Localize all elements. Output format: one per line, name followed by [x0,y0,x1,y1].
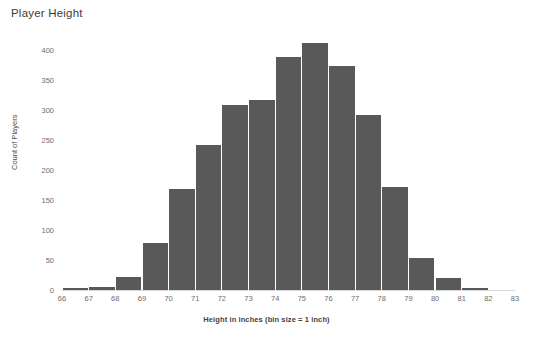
x-axis-tick-label: 77 [351,294,359,303]
y-axis-tick-label: 150 [41,196,54,205]
x-axis-tick-label: 78 [378,294,386,303]
x-axis-tick-label: 69 [138,294,146,303]
histogram-bar[interactable] [222,105,247,290]
plot-area [62,36,515,290]
x-axis-tick-label: 79 [404,294,412,303]
histogram-bar[interactable] [329,66,354,290]
histogram-bar[interactable] [356,115,381,290]
y-axis-title: Count of Players [10,115,19,170]
histogram-bar[interactable] [116,277,141,290]
x-axis-tick-label: 81 [458,294,466,303]
histogram-bar[interactable] [249,100,274,290]
y-axis-tick-label: 50 [46,256,54,265]
histogram-bar[interactable] [409,258,434,290]
y-axis-tick-label: 400 [41,46,54,55]
y-axis-tick-label: 0 [50,286,54,295]
y-axis-tick-label: 200 [41,166,54,175]
y-axis: Count of Players 05010015020025030035040… [0,0,62,337]
x-axis-tick-label: 67 [84,294,92,303]
y-axis-tick-label: 300 [41,106,54,115]
histogram-bar[interactable] [382,187,407,290]
x-axis-line [62,290,515,291]
y-axis-tick-label: 350 [41,76,54,85]
x-axis-tick-label: 82 [484,294,492,303]
x-axis-tick-label: 74 [271,294,279,303]
x-axis-tick-label: 66 [58,294,66,303]
y-axis-tick-label: 250 [41,136,54,145]
y-axis-tick-label: 100 [41,226,54,235]
histogram-bar[interactable] [436,278,461,290]
x-axis-tick-label: 73 [244,294,252,303]
x-axis-tick-label: 68 [111,294,119,303]
histogram-bar[interactable] [169,189,194,290]
histogram-bar[interactable] [302,43,327,290]
x-axis-tick-label: 83 [511,294,519,303]
histogram-bar[interactable] [196,145,221,290]
x-axis-tick-label: 80 [431,294,439,303]
x-axis-tick-label: 71 [191,294,199,303]
x-axis-tick-label: 76 [324,294,332,303]
histogram-bar[interactable] [276,57,301,290]
x-axis-tick-label: 75 [298,294,306,303]
x-axis-title: Height in inches (bin size = 1 inch) [0,315,533,324]
x-axis-tick-label: 72 [218,294,226,303]
x-axis-tick-label: 70 [164,294,172,303]
histogram-chart: Player Height Count of Players 050100150… [0,0,533,337]
histogram-bar[interactable] [143,243,168,290]
